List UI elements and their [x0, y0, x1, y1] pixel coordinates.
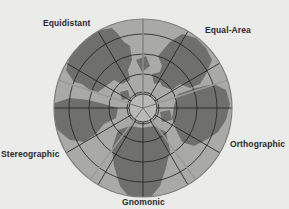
label-equal-area: Equal-Area [205, 25, 251, 35]
label-orthographic: Orthographic [230, 139, 285, 149]
label-gnomonic: Gnomonic [122, 197, 165, 207]
label-equidistant: Equidistant [43, 18, 90, 28]
label-stereographic: Stereographic [1, 149, 59, 159]
